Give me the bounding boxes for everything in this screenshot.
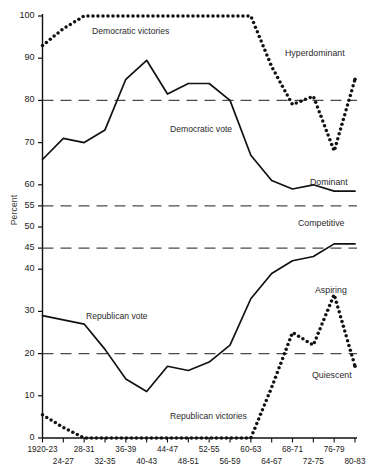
x-tick-label: 32-35 [87, 457, 123, 466]
x-tick-label: 72-75 [295, 457, 331, 466]
zone-label-competitive: Competitive [298, 218, 344, 228]
y-tick-label: 0 [9, 433, 35, 442]
zone-label-aspiring: Aspiring [315, 285, 347, 295]
zone-label-dominant: Dominant [310, 177, 348, 187]
x-tick-label: 24-27 [45, 457, 81, 466]
y-tick-label: 45 [9, 243, 35, 252]
x-tick-label: 76-79 [316, 445, 352, 454]
x-tick-label: 36-39 [108, 445, 144, 454]
chart-axes [38, 14, 357, 443]
x-tick-label: 28-31 [66, 445, 102, 454]
y-tick-label: 20 [9, 349, 35, 358]
x-tick-label: 52-55 [191, 445, 227, 454]
y-tick-label: 100 [9, 11, 35, 20]
annotation-republican-victories: Republican victories [170, 411, 247, 421]
x-tick-label: 68-71 [275, 445, 311, 454]
annotation-democratic-vote: Democratic vote [170, 124, 232, 134]
x-tick-label: 64-67 [254, 457, 290, 466]
y-tick-label: 40 [9, 264, 35, 273]
y-tick-label: 30 [9, 306, 35, 315]
chart-container: Percent 01020304045505560708090100 1920-… [0, 0, 369, 475]
y-tick-label: 80 [9, 95, 35, 104]
zone-label-hyperdominant: Hyperdominant [285, 48, 345, 58]
zone-label-quiescent: Quiescent [312, 370, 352, 380]
x-tick-label: 1920-23 [19, 445, 67, 454]
x-tick-label: 44-47 [150, 445, 186, 454]
y-tick-label: 60 [9, 180, 35, 189]
x-tick-label: 80-83 [337, 457, 369, 466]
y-tick-label: 55 [9, 201, 35, 210]
x-tick-label: 48-51 [170, 457, 206, 466]
x-tick-label: 40-43 [129, 457, 165, 466]
x-tick-label: 60-63 [233, 445, 269, 454]
y-tick-label: 70 [9, 138, 35, 147]
y-tick-label: 90 [9, 53, 35, 62]
y-tick-label: 10 [9, 391, 35, 400]
y-axis-title: Percent [9, 180, 19, 240]
chart-plot-area [0, 0, 369, 475]
annotation-democratic-victories: Democratic victories [92, 26, 169, 36]
y-tick-label: 50 [9, 222, 35, 231]
annotation-republican-vote: Republican vote [86, 311, 148, 321]
x-tick-label: 56-59 [212, 457, 248, 466]
